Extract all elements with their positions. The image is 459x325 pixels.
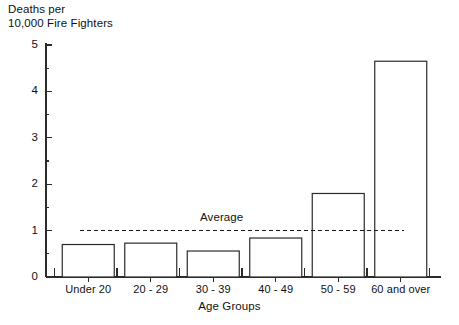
bar xyxy=(312,193,364,277)
y-tick-label: 4 xyxy=(16,84,38,96)
bar xyxy=(125,243,177,277)
bar xyxy=(250,238,302,277)
y-tick-label: 5 xyxy=(16,38,38,50)
bar xyxy=(375,61,427,277)
bar xyxy=(187,251,239,277)
y-tick-label: 2 xyxy=(16,177,38,189)
bar xyxy=(62,245,114,277)
average-label: Average xyxy=(200,211,243,223)
plot-area xyxy=(0,0,459,325)
y-tick-label: 1 xyxy=(16,224,38,236)
x-tick-label: 60 and over xyxy=(338,283,459,295)
y-tick-label: 3 xyxy=(16,131,38,143)
bar-chart: Deaths per 10,000 Fire Fighters Age Grou… xyxy=(0,0,459,325)
y-tick-label: 0 xyxy=(16,270,38,282)
x-axis-title: Age Groups xyxy=(0,300,459,312)
